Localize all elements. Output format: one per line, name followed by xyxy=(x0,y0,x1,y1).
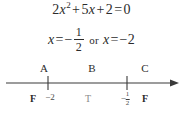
tick-fraction: 12 xyxy=(126,91,130,107)
region-label-b: B xyxy=(88,62,95,74)
fraction-denominator: 2 xyxy=(74,41,84,53)
tick-label-minus-two: −2 xyxy=(45,92,55,102)
solution-2-value: −2 xyxy=(120,32,136,47)
equation-line: 2x2+5x+2=0 xyxy=(0,2,183,18)
fraction-one-half: 12 xyxy=(74,26,84,53)
math-figure: 2x2+5x+2=0 x=−12orx=−2 A B C F T F −2 −1… xyxy=(0,0,183,119)
region-label-c: C xyxy=(141,62,148,74)
number-line: A B C F T F −2 −12 xyxy=(0,62,183,119)
right-hand-side: 0 xyxy=(123,2,130,17)
truth-value-region-a: F xyxy=(30,93,36,104)
equals-sign-3: = xyxy=(109,32,119,47)
region-label-a: A xyxy=(40,62,48,74)
tick-fraction-numerator: 1 xyxy=(126,91,130,98)
truth-value-region-b: T xyxy=(85,93,91,104)
conjunction-or: or xyxy=(85,34,103,46)
solutions-line: x=−12orx=−2 xyxy=(0,27,183,54)
coefficient-b: 5 xyxy=(81,2,88,17)
truth-value-region-c: F xyxy=(142,93,148,104)
equals-sign-1: = xyxy=(113,2,123,17)
fraction-numerator: 1 xyxy=(74,26,84,38)
axis-right-arrow-icon xyxy=(170,79,179,86)
equals-sign-2: = xyxy=(54,32,64,47)
plus-sign-1: + xyxy=(71,2,81,17)
constant-c: 2 xyxy=(106,2,113,17)
negative-sign: − xyxy=(65,32,73,47)
plus-sign-2: + xyxy=(95,2,105,17)
coefficient-a: 2 xyxy=(52,2,59,17)
tick-label-minus-one-half: −12 xyxy=(121,91,130,107)
tick-fraction-denominator: 2 xyxy=(126,100,130,107)
